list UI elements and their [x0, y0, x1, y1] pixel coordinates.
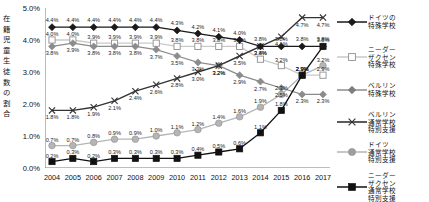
- marker-diamond: [299, 91, 306, 98]
- legend-marker-x-icon: [336, 115, 368, 129]
- data-label: 3.8%: [254, 36, 267, 42]
- marker-circle: [257, 104, 264, 111]
- marker-circle: [132, 136, 139, 143]
- marker-diamond: [174, 53, 181, 60]
- marker-square: [299, 72, 305, 78]
- marker-diamond: [299, 43, 306, 50]
- y-axis-title-char: 徒: [0, 67, 13, 78]
- data-label: 3.8%: [46, 50, 59, 56]
- marker-diamond: [320, 91, 327, 98]
- data-label: 3.8%: [317, 36, 330, 42]
- marker-square-open: [174, 43, 180, 49]
- y-axis-tick-label: 1.0%: [14, 132, 40, 141]
- marker-square-open: [237, 43, 243, 49]
- marker-square-open: [195, 43, 201, 49]
- legend-label-line: ベルリン: [368, 82, 396, 90]
- data-label: 3.8%: [87, 50, 100, 56]
- legend-label-line: 特別支援: [368, 156, 396, 164]
- data-label: 3.5%: [171, 60, 184, 66]
- data-label: 0.9%: [129, 130, 142, 136]
- data-label: 3.2%: [275, 57, 288, 63]
- legend-label-line: 通常学校: [368, 187, 396, 195]
- data-label: 4.7%: [296, 22, 309, 28]
- marker-square: [49, 159, 55, 165]
- data-label: 3.9%: [108, 34, 121, 40]
- y-axis-title-char: 数: [0, 78, 13, 89]
- y-axis-title-char: 割: [0, 99, 13, 110]
- marker-square-open: [349, 54, 356, 61]
- legend-label: ニーダーザクセン通常学校特別支援: [368, 172, 396, 202]
- data-label: 3.2%: [317, 57, 330, 63]
- marker-diamond: [49, 24, 56, 31]
- data-label: 4.4%: [150, 17, 163, 23]
- data-label: 1.2%: [192, 121, 205, 127]
- data-label: 1.8%: [66, 114, 79, 120]
- data-label: 3.0%: [192, 76, 205, 82]
- data-label: 0.8%: [87, 133, 100, 139]
- data-label: 4.4%: [87, 17, 100, 23]
- legend-label: ニーダーザクセン特殊学校: [368, 46, 396, 69]
- marker-square: [70, 155, 76, 161]
- data-label: 4.2%: [192, 24, 205, 30]
- marker-diamond: [132, 24, 139, 31]
- data-label: 0.9%: [108, 130, 121, 136]
- marker-square: [91, 159, 97, 165]
- data-label: 3.8%: [108, 50, 121, 56]
- marker-square: [257, 130, 263, 136]
- legend-label-line: ドイツ: [368, 141, 396, 149]
- data-label: 3.8%: [275, 36, 288, 42]
- legend-marker-circle-icon: [336, 145, 368, 159]
- legend-item-5[interactable]: ニーダーザクセン通常学校特別支援: [336, 172, 429, 202]
- y-axis-tick-label: 0.0%: [14, 164, 40, 173]
- marker-square: [237, 146, 243, 152]
- data-label: 0.3%: [171, 149, 184, 155]
- data-label: 4.4%: [108, 17, 121, 23]
- data-label: 1.9%: [87, 111, 100, 117]
- marker-diamond: [90, 24, 97, 31]
- y-axis-title-char: 合: [0, 109, 13, 120]
- data-label: 3.8%: [171, 37, 184, 43]
- y-axis-title-char: 生: [0, 56, 13, 67]
- data-label: 0.2%: [87, 153, 100, 159]
- data-label: 4.4%: [66, 17, 79, 23]
- y-axis-title-char: 在: [0, 14, 13, 25]
- data-label: 2.6%: [150, 89, 163, 95]
- data-label: 4.0%: [233, 30, 246, 36]
- legend-item-4[interactable]: ドイツ通常学校特別支援: [336, 141, 429, 164]
- marker-circle: [111, 136, 118, 143]
- data-label: 1.1%: [171, 124, 184, 130]
- marker-square: [278, 107, 284, 113]
- data-label: 2.9%: [296, 66, 309, 72]
- y-axis-title-char: の: [0, 88, 13, 99]
- legend-item-0[interactable]: ドイツの特殊学校: [336, 14, 429, 29]
- y-axis-title-char: 童: [0, 46, 13, 57]
- data-label: 1.1%: [254, 124, 267, 130]
- legend-item-2[interactable]: ベルリン特殊学校: [336, 82, 429, 97]
- data-label: 4.7%: [317, 22, 330, 28]
- marker-square-open: [49, 37, 55, 43]
- marker-square: [349, 184, 356, 191]
- plot-area: 0.7%0.7%0.8%0.9%0.9%1.0%1.1%1.2%1.4%1.6%…: [45, 8, 330, 168]
- data-label: 1.8%: [46, 114, 59, 120]
- data-label: 4.3%: [171, 20, 184, 26]
- data-label: 4.4%: [46, 17, 59, 23]
- y-axis-tick-label: 4.0%: [14, 36, 40, 45]
- legend-item-1[interactable]: ニーダーザクセン特殊学校: [336, 46, 429, 69]
- marker-square-open: [278, 63, 284, 69]
- y-axis-title-char: 児: [0, 35, 13, 46]
- legend-item-3[interactable]: ベルリン通常学校特別支援: [336, 111, 429, 134]
- legend-label-line: 特別支援: [368, 126, 396, 134]
- marker-circle: [348, 149, 355, 156]
- y-axis-tick-label: 2.0%: [14, 100, 40, 109]
- data-label: 0.7%: [46, 137, 59, 143]
- data-label: 4.4%: [129, 17, 142, 23]
- data-label: 3.8%: [192, 37, 205, 43]
- legend-marker-square-open-icon: [336, 50, 368, 64]
- legend: ドイツの特殊学校ニーダーザクセン特殊学校ベルリン特殊学校ベルリン通常学校特別支援…: [336, 6, 429, 192]
- legend-label-line: 特別支援: [368, 195, 396, 202]
- marker-circle: [215, 120, 222, 127]
- y-axis-title: 在籍児童生徒数の割合: [0, 14, 13, 164]
- y-axis-tick-label: 5.0%: [14, 4, 40, 13]
- data-label: 3.9%: [129, 34, 142, 40]
- data-label: 1.6%: [233, 108, 246, 114]
